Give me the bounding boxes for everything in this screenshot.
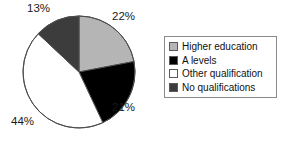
legend-swatch-other-qualification bbox=[169, 69, 178, 78]
legend-label-a-levels: A levels bbox=[182, 55, 216, 66]
legend-swatch-higher-education bbox=[169, 42, 178, 51]
legend-item-no-qualifications: No qualifications bbox=[169, 81, 272, 95]
chart-legend: Higher education A levels Other qualific… bbox=[164, 36, 277, 98]
pie-chart-figure: 13% 22% 21% 44% Higher education A level… bbox=[0, 0, 289, 142]
legend-item-higher-education: Higher education bbox=[169, 40, 272, 54]
legend-label-higher-education: Higher education bbox=[182, 41, 258, 52]
legend-item-a-levels: A levels bbox=[169, 54, 272, 68]
pie-label-higher-education: 22% bbox=[112, 10, 135, 22]
legend-swatch-no-qualifications bbox=[169, 83, 178, 92]
legend-label-other-qualification: Other qualification bbox=[182, 68, 263, 79]
legend-item-other-qualification: Other qualification bbox=[169, 67, 272, 81]
pie-label-a-levels: 21% bbox=[112, 101, 135, 113]
legend-swatch-a-levels bbox=[169, 56, 178, 65]
legend-label-no-qualifications: No qualifications bbox=[182, 82, 255, 93]
pie-label-no-qualifications: 13% bbox=[27, 2, 50, 14]
pie-label-other-qualification: 44% bbox=[11, 115, 34, 127]
